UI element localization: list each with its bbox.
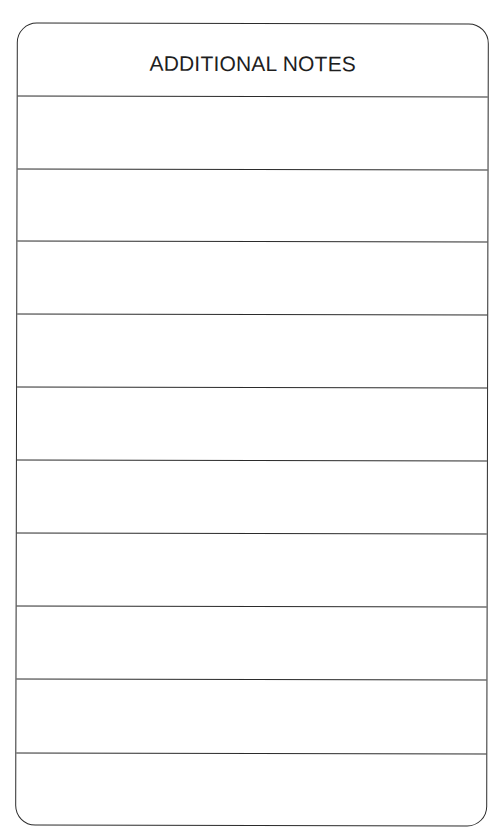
note-line-1[interactable] (18, 98, 488, 169)
notes-frame: ADDITIONAL NOTES (15, 23, 489, 827)
note-line-9[interactable] (16, 681, 486, 752)
note-line-7[interactable] (17, 535, 487, 606)
note-line-8[interactable] (16, 608, 486, 679)
note-line-5[interactable] (17, 389, 487, 460)
note-line-10[interactable] (16, 755, 486, 824)
note-line-4[interactable] (17, 316, 487, 387)
note-line-2[interactable] (17, 171, 487, 242)
note-line-6[interactable] (17, 462, 487, 533)
page-title: ADDITIONAL NOTES (18, 52, 488, 77)
notes-page: ADDITIONAL NOTES (0, 0, 503, 839)
note-line-3[interactable] (17, 243, 487, 314)
